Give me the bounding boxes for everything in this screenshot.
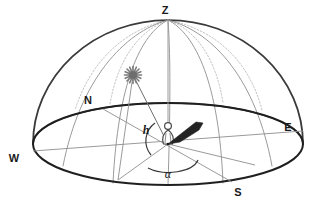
label-west: W: [9, 152, 20, 164]
meridian-back-1: [168, 20, 223, 103]
azimuth-base-line: [118, 144, 168, 180]
sun-icon: [125, 67, 142, 84]
label-north: N: [84, 94, 92, 106]
celestial-sphere-illustration: Z N E S W h α: [0, 0, 317, 208]
celestial-hemisphere-diagram: Z N E S W h α: [0, 0, 317, 208]
label-zenith: Z: [162, 4, 169, 16]
observer-origin-point: [167, 143, 170, 146]
meridian-back-2: [168, 20, 262, 110]
label-azimuth-angle: α: [165, 167, 172, 181]
azimuth-arc: [148, 160, 198, 172]
shadow-direction-line: [168, 144, 255, 165]
sun-to-observer-ray: [133, 75, 168, 144]
label-altitude-angle: h: [143, 123, 150, 137]
meridian-front-1: [168, 20, 223, 183]
cast-shadow: [168, 122, 203, 144]
label-south: S: [234, 186, 241, 198]
meridian-front-4: [63, 20, 168, 166]
meridian-back-3: [110, 20, 168, 104]
label-east: E: [284, 121, 291, 133]
